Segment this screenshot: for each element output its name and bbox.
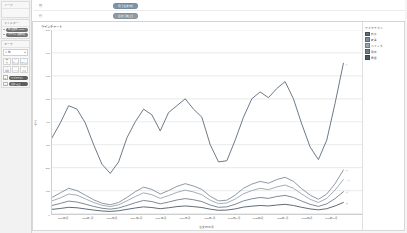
legend-label: 家具 xyxy=(371,38,377,42)
plot-wrapper: 売上 0100200300400500600700800 椅子家具バインダ用紙電… xyxy=(33,30,362,215)
chart-svg xyxy=(52,30,362,214)
color-button[interactable]: ◉ 色 xyxy=(3,58,11,66)
chart-container: ラインチャート 売上 0100200300400500600700800 椅子家… xyxy=(33,22,362,230)
marks-card-body: ∿ 線 ◉ 色 ◫ サイズ T ラベル xyxy=(2,48,29,88)
size-button-label: サイズ xyxy=(13,62,19,64)
legend-label: 用紙 xyxy=(371,50,377,54)
legend-swatch-icon xyxy=(365,49,370,54)
columns-pill[interactable]: 月 (注文日) xyxy=(113,3,138,9)
columns-shelf[interactable]: 列 月 (注文日) xyxy=(34,1,405,11)
mark-property-grid: ◉ 色 ◫ サイズ T ラベル ⣿ 詳細 xyxy=(3,58,28,74)
legend-title: サブカテゴリ xyxy=(365,26,402,30)
rows-pill[interactable]: 合計 (売上) xyxy=(113,13,138,19)
y-axis-tick: 700 xyxy=(46,52,50,55)
y-axis-tick: 500 xyxy=(46,98,50,101)
rows-pill-wrap: 合計 (売上) xyxy=(113,13,138,19)
encoding-pill-label[interactable]: サブカテゴリ xyxy=(9,76,28,80)
x-axis-tick: 2020年1月 xyxy=(58,216,68,220)
y-axis-tick: 100 xyxy=(46,190,50,193)
label-button-label: ラベル xyxy=(21,62,27,64)
filter-pill-label[interactable]: 年 (注文日): 2020... xyxy=(6,28,29,32)
x-axis-tick: 2020年4月 xyxy=(82,216,92,220)
x-axis-tick: 2021年7月 xyxy=(204,216,214,220)
legend-item[interactable]: バインダ xyxy=(365,43,402,48)
columns-shelf-label: 列 xyxy=(34,4,61,8)
legend-item[interactable]: 用紙 xyxy=(365,49,402,54)
label-encoding-icon: T xyxy=(3,82,8,87)
filter-pill-label[interactable]: カテゴリ: 複数の値 xyxy=(6,33,29,37)
mark-type-value-wrap: ∿ 線 xyxy=(5,50,11,54)
mark-type-value: 線 xyxy=(8,50,11,54)
pages-card-body[interactable] xyxy=(2,9,29,17)
size-button[interactable]: ◫ サイズ xyxy=(12,58,20,66)
y-axis-tick: 800 xyxy=(46,29,50,32)
filter-bullet-icon xyxy=(3,34,5,36)
color-encoding-icon: ◉ xyxy=(3,75,8,80)
legend-item[interactable]: 椅子 xyxy=(365,32,402,37)
chevron-down-icon[interactable] xyxy=(24,52,26,53)
filters-card: フィルター 年 (注文日): 2020... カテゴリ: 複数の値 xyxy=(1,19,30,39)
columns-pill-wrap: 月 (注文日) xyxy=(113,3,138,9)
x-axis-tick: 2022年10月 xyxy=(325,216,337,220)
y-axis-tick: 600 xyxy=(46,75,50,78)
tooltip-button-label: ツール xyxy=(13,70,19,72)
line-mark-icon: ∿ xyxy=(5,51,7,54)
rows-shelf[interactable]: 行 合計 (売上) xyxy=(34,11,405,20)
x-axis-tick: 2022年1月 xyxy=(253,216,263,220)
filter-item[interactable]: 年 (注文日): 2020... xyxy=(3,28,28,32)
x-axis-tick: 2021年4月 xyxy=(180,216,190,220)
tooltip-button[interactable]: ▭ ツール xyxy=(12,66,20,74)
path-button[interactable]: ∿ パス xyxy=(20,66,28,74)
y-axis-tick: 400 xyxy=(46,121,50,124)
x-axis-title: 注文日の月 xyxy=(51,225,362,231)
x-axis-tick: 2020年7月 xyxy=(107,216,117,220)
path-button-label: パス xyxy=(22,70,26,72)
legend: サブカテゴリ 椅子家具バインダ用紙電話 xyxy=(362,22,404,230)
filter-item[interactable]: カテゴリ: 複数の値 xyxy=(3,33,28,37)
y-axis-ticks: 0100200300400500600700800 xyxy=(39,30,51,215)
plot-area[interactable]: 椅子家具バインダ用紙電話 xyxy=(51,30,362,215)
marks-card: マーク ∿ 線 ◉ 色 ◫ サイズ xyxy=(1,40,30,88)
legend-label: 椅子 xyxy=(371,32,377,36)
shelves-area: 列 月 (注文日) 行 合計 (売上) xyxy=(32,0,405,22)
legend-swatch-icon xyxy=(365,43,370,48)
legend-swatch-icon xyxy=(365,32,370,37)
label-button[interactable]: T ラベル xyxy=(20,58,28,66)
encoding-item-color[interactable]: ◉ サブカテゴリ xyxy=(3,75,28,80)
filters-card-body: 年 (注文日): 2020... カテゴリ: 複数の値 xyxy=(2,27,29,38)
y-axis-tick: 200 xyxy=(46,167,50,170)
x-axis-tick: 2021年10月 xyxy=(228,216,240,220)
x-axis-tick: 2022年7月 xyxy=(302,216,312,220)
filter-bullet-icon xyxy=(3,29,5,31)
detail-button-label: 詳細 xyxy=(5,70,9,72)
visualization-area: ラインチャート 売上 0100200300400500600700800 椅子家… xyxy=(32,22,405,231)
legend-swatch-icon xyxy=(365,37,370,42)
x-axis-tick: 2021年1月 xyxy=(155,216,165,220)
legend-items: 椅子家具バインダ用紙電話 xyxy=(365,32,402,61)
y-axis-tick: 300 xyxy=(46,144,50,147)
chart-title: ラインチャート xyxy=(33,22,362,30)
mark-type-select[interactable]: ∿ 線 xyxy=(3,49,28,56)
encoding-pill-label[interactable]: 合計 (売上) xyxy=(9,82,28,86)
legend-label: 電話 xyxy=(371,56,377,60)
legend-item[interactable]: 電話 xyxy=(365,55,402,60)
x-axis-ticks: 2020年1月2020年4月2020年7月2020年10月2021年1月2021… xyxy=(51,215,362,225)
encoding-item-label[interactable]: T 合計 (売上) xyxy=(3,82,28,87)
pages-card: ページ xyxy=(1,1,30,18)
left-panel: ページ フィルター 年 (注文日): 2020... カテゴリ: 複数の値 マー… xyxy=(0,0,32,233)
tableau-worksheet: ページ フィルター 年 (注文日): 2020... カテゴリ: 複数の値 マー… xyxy=(0,0,407,233)
color-button-label: 色 xyxy=(6,62,8,64)
legend-item[interactable]: 家具 xyxy=(365,37,402,42)
legend-label: バインダ xyxy=(371,44,383,48)
x-axis-tick: 2020年10月 xyxy=(130,216,142,220)
detail-button[interactable]: ⣿ 詳細 xyxy=(3,66,11,74)
x-axis-tick: 2022年4月 xyxy=(277,216,287,220)
legend-swatch-icon xyxy=(365,55,370,60)
rows-shelf-label: 行 xyxy=(34,14,61,18)
y-axis-tick: 0 xyxy=(49,213,50,216)
